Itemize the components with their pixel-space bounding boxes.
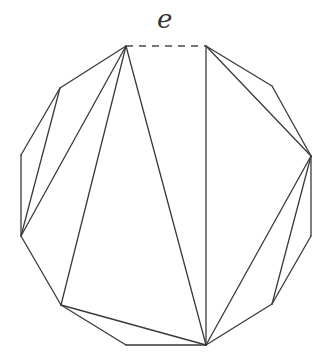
polygon-edge (21, 236, 61, 305)
polygon-edge (206, 304, 272, 345)
polygon-and-diagonal-edges (21, 46, 311, 345)
diagonal (126, 46, 206, 345)
polygon-edge (272, 236, 311, 304)
diagonal (21, 88, 60, 236)
edge-label-e: e (157, 4, 172, 34)
diagonal (21, 46, 126, 236)
polygon-edge (61, 305, 126, 345)
diagonal (61, 305, 206, 345)
polygon-edge (21, 88, 60, 155)
polygon-edge (60, 46, 126, 88)
diagonal (206, 46, 311, 156)
diagonal (206, 156, 311, 345)
diagonal (61, 46, 126, 305)
diagonal (272, 156, 311, 304)
triangulated-polygon-diagram (0, 0, 328, 363)
